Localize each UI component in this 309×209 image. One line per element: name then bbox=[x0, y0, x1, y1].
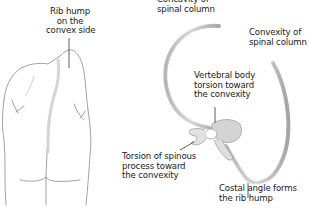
back-torso-outline bbox=[3, 50, 91, 205]
label-vertebral-body: Vertebral body torsion toward the convex… bbox=[194, 71, 255, 100]
label-costal-angle: Costal angle forms the rib hump bbox=[219, 184, 297, 203]
label-convexity: Convexity of spinal column bbox=[249, 28, 307, 47]
label-concavity: Concavity of spinal column bbox=[157, 0, 215, 14]
label-spinous-process: Torsion of spinous process toward the co… bbox=[122, 152, 196, 181]
label-rib-hump: Rib hump on the convex side bbox=[46, 7, 94, 36]
spine-groove-shading bbox=[48, 60, 59, 152]
spinous-process-leader bbox=[180, 142, 194, 150]
